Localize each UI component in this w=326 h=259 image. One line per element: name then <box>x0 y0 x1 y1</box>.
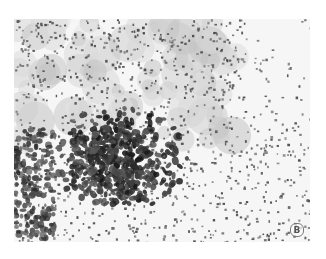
micrograph-image: B <box>14 19 310 242</box>
panel-label: B <box>290 223 304 237</box>
micrograph-texture <box>14 19 310 242</box>
